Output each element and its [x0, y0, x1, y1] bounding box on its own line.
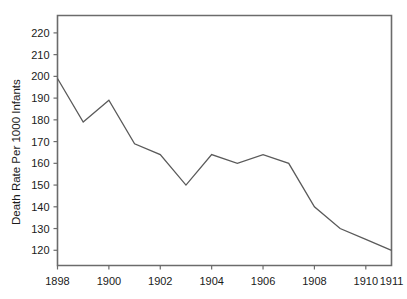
y-tick-label: 210: [31, 49, 49, 61]
x-tick-label: 1906: [251, 275, 275, 287]
y-tick-label: 150: [31, 179, 49, 191]
x-tick-label: 1898: [45, 275, 69, 287]
x-tick-label: 1902: [148, 275, 172, 287]
y-tick-label: 190: [31, 92, 49, 104]
x-tick-label: 1908: [302, 275, 326, 287]
y-tick-label: 130: [31, 223, 49, 235]
y-axis-title-text: Death Rate Per 1000 Infants: [10, 79, 22, 225]
y-axis-title: Death Rate Per 1000 Infants: [10, 79, 22, 225]
chart-page: 120130140150160170180190200210220 189819…: [0, 0, 407, 299]
x-tick-label: 1904: [199, 275, 223, 287]
y-tick-label: 120: [31, 244, 49, 256]
chart-background: [0, 0, 407, 299]
x-tick-label: 1900: [97, 275, 121, 287]
x-tick-label: 1911: [380, 275, 404, 287]
y-tick-label: 170: [31, 136, 49, 148]
y-tick-label: 220: [31, 27, 49, 39]
y-tick-label: 140: [31, 201, 49, 213]
y-tick-label: 180: [31, 114, 49, 126]
x-tick-label: 1910: [354, 275, 378, 287]
line-chart: 120130140150160170180190200210220 189819…: [0, 0, 407, 299]
y-tick-label: 200: [31, 70, 49, 82]
y-tick-label: 160: [31, 157, 49, 169]
